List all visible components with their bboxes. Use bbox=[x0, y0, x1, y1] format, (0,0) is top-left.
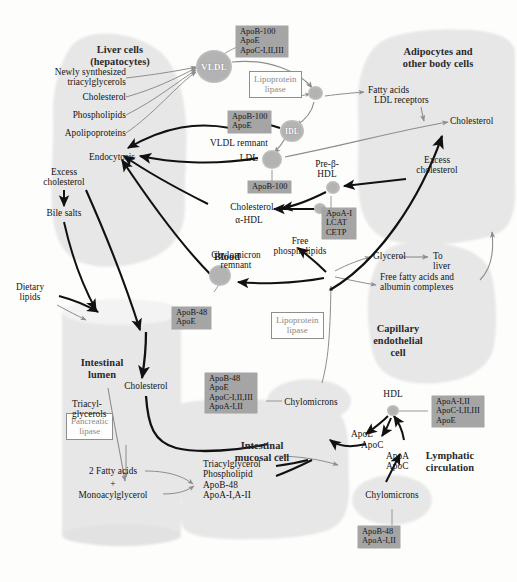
label-phospholipids-liver: Phospholipids bbox=[73, 110, 126, 120]
apo-box-chylomicron-remnant: ApoB-48 ApoE bbox=[172, 307, 211, 329]
region-title-liver: Liver cells (hepatocytes) bbox=[90, 44, 150, 68]
label-ffa-albumin-complexes: Free fatty acids and albumin complexes bbox=[380, 272, 454, 293]
label-dietary-lipids: Dietary lipids bbox=[16, 282, 44, 303]
label-apoa-back: ApoA bbox=[386, 451, 409, 461]
node-ldl bbox=[262, 150, 282, 169]
label-plus-sign: + bbox=[110, 479, 115, 489]
label-excess-cholesterol-adipocyte: Excess cholesterol bbox=[416, 155, 457, 176]
label-free-phospholipids: Free phospholipids bbox=[274, 236, 327, 257]
label-cholesterol-liver: Cholesterol bbox=[83, 92, 126, 102]
thick-black-arrows bbox=[59, 122, 442, 482]
label-two-fatty-acids: 2 Fatty acids bbox=[89, 466, 137, 476]
node-vldl: VLDL bbox=[196, 50, 232, 83]
label-newly-synthesized-tag: Newly synthesized triacylglycerols bbox=[55, 67, 126, 88]
label-excess-cholesterol-liver: Excess cholesterol bbox=[43, 167, 84, 188]
region-title-capillary: Capillary endothelial cell bbox=[373, 323, 423, 359]
label-hdl: HDL bbox=[383, 389, 402, 399]
label-ldl: LDL bbox=[240, 153, 258, 163]
enzyme-box-lipoprotein-lipase-top: Lipoprotein lipase bbox=[249, 71, 302, 98]
apo-box-chylomicron: ApoB-48 ApoE ApoC-I,II,III ApoA-I,II bbox=[205, 373, 257, 413]
label-mucosal-products: Triacylglycerol Phospholipid ApoB-48 Apo… bbox=[203, 459, 261, 501]
label-apoe-transfer: ApoE bbox=[351, 429, 373, 439]
label-glycerol: Glycerol bbox=[373, 251, 406, 261]
label-monoacylglycerol: Monoacylglycerol bbox=[79, 490, 148, 500]
label-to-liver: To liver bbox=[433, 251, 450, 272]
label-cholesterol-blood: Cholesterol bbox=[230, 202, 273, 212]
region-title-lymphatic: Lymphatic circulation bbox=[426, 450, 474, 474]
apo-box-ldl: ApoB-100 bbox=[248, 181, 291, 193]
node-idl: IDL bbox=[280, 120, 304, 142]
node-hdl bbox=[387, 405, 399, 416]
label-bile-salts: Bile salts bbox=[47, 208, 82, 218]
apo-box-hdl-enzymes: ApoA-I LCAT CETP bbox=[322, 208, 356, 239]
label-cholesterol-adipocyte: Cholesterol bbox=[450, 116, 493, 126]
node-capillary-lpl-site-top bbox=[308, 86, 323, 100]
apo-box-vldl-remnant: ApoB-100 ApoE bbox=[228, 111, 271, 133]
label-vldl-remnant: VLDL remnant bbox=[210, 138, 268, 148]
apo-box-nascent-chylomicron: ApoB-48 ApoA-I,II bbox=[358, 526, 400, 548]
label-fatty-acids: Fatty acids bbox=[368, 85, 409, 95]
region-title-intestinal-lumen: Intestinal lumen bbox=[81, 357, 124, 381]
apo-box-lymph-hdl: ApoA-I,II ApoC-I,II,III ApoE bbox=[432, 396, 484, 427]
label-pre-beta-hdl: Pre-β- HDL bbox=[315, 159, 339, 180]
node-pre-beta-hdl bbox=[326, 181, 340, 194]
enzyme-box-lipoprotein-lipase-mid: Lipoprotein lipase bbox=[271, 312, 324, 339]
label-ldl-receptors: LDL receptors bbox=[374, 95, 429, 105]
label-chylomicrons-lymph: Chylomicrons bbox=[365, 490, 418, 500]
label-chylomicrons-capillary: Chylomicrons bbox=[284, 397, 337, 407]
label-triacylglycerols-lumen: Triacyl- glycerols bbox=[72, 399, 107, 420]
label-apoc-back: ApoC bbox=[386, 461, 408, 471]
label-chylomicron-remnant: Chylomicron remnant bbox=[211, 250, 261, 271]
label-apoc-transfer: ApoC bbox=[361, 440, 383, 450]
region-title-adipocytes: Adipocytes and other body cells bbox=[403, 46, 473, 70]
label-cholesterol-lumen: Cholesterol bbox=[124, 381, 167, 391]
label-apolipoproteins-liver: Apolipoproteins bbox=[65, 128, 126, 138]
label-alpha-hdl: α-HDL bbox=[235, 215, 262, 225]
lipoprotein-metabolism-diagram: Liver cells (hepatocytes) Adipocytes and… bbox=[0, 0, 517, 582]
apo-box-vldl: ApoB-100 ApoE ApoC-I,II,III bbox=[236, 26, 288, 57]
label-endocytosis: Endocytosis bbox=[89, 152, 135, 162]
